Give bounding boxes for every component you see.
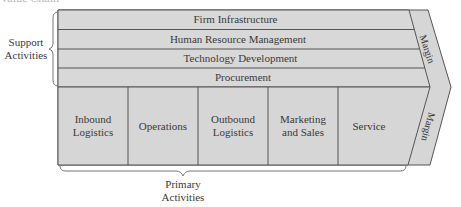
support-brace	[49, 12, 58, 86]
primary-brace	[60, 166, 406, 176]
primary-col-line1: Operations	[128, 120, 198, 133]
primary-col-line2: Logistics	[58, 126, 128, 139]
primary-col-inbound-logistics: Inbound Logistics	[58, 113, 128, 139]
primary-label-line2: Activities	[150, 191, 216, 204]
support-row-technology-development: Technology Development	[58, 52, 423, 65]
primary-label-line1: Primary	[150, 178, 216, 191]
support-row-human-resource-management: Human Resource Management	[58, 33, 418, 46]
primary-col-line1: Outbound	[198, 113, 268, 126]
primary-col-marketing-and-sales: Marketing and Sales	[268, 113, 338, 139]
primary-col-outbound-logistics: Outbound Logistics	[198, 113, 268, 139]
support-row-procurement: Procurement	[58, 71, 428, 84]
primary-col-line1: Service	[338, 120, 400, 133]
value-chain-diagram: Margin Margin	[0, 0, 461, 207]
primary-col-line1: Marketing	[268, 113, 338, 126]
support-activities-label: Support Activities	[2, 36, 50, 62]
support-label-line2: Activities	[2, 49, 50, 62]
primary-col-operations: Operations	[128, 120, 198, 133]
primary-activities-label: Primary Activities	[150, 178, 216, 204]
primary-col-line2: and Sales	[268, 126, 338, 139]
support-row-firm-infrastructure: Firm Infrastructure	[58, 13, 413, 26]
support-label-line1: Support	[2, 36, 50, 49]
primary-col-line2: Logistics	[198, 126, 268, 139]
primary-col-line1: Inbound	[58, 113, 128, 126]
primary-col-service: Service	[338, 120, 400, 133]
